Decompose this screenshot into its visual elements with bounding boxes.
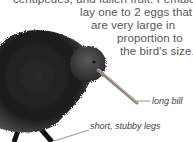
label-long-bill: long bill	[152, 96, 183, 106]
kiwi-body	[0, 30, 106, 133]
bill	[98, 70, 137, 103]
label-short-stubby-legs: short, stubby legs	[90, 121, 161, 131]
legs-leader-line	[54, 130, 89, 141]
eye	[93, 61, 96, 64]
